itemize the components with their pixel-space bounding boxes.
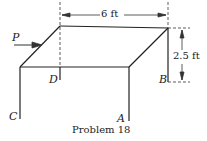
label-p: P — [12, 32, 19, 43]
label-b: B — [159, 74, 167, 85]
figure-caption: Problem 18 — [72, 125, 130, 135]
width-dimension: 6 ft — [101, 9, 118, 19]
label-a: A — [117, 113, 125, 124]
frame-diagram — [0, 0, 207, 141]
label-d: D — [49, 74, 58, 85]
height-dimension: 2.5 ft — [173, 51, 200, 61]
label-c: C — [9, 111, 17, 122]
